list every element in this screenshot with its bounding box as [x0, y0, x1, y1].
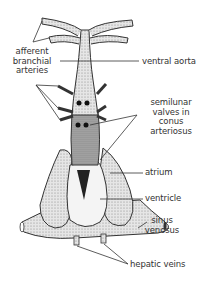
label-ventral-aorta: ventral aorta	[142, 57, 196, 67]
ventricle-shape	[67, 162, 107, 227]
conus-arteriosus-shape	[71, 112, 100, 165]
label-atrium: atrium	[145, 168, 172, 178]
label-sinus-venosus: sinus venosus	[142, 216, 182, 235]
ventral-aorta-shape	[42, 18, 133, 128]
label-ventricle: ventricle	[145, 194, 181, 204]
label-afferent-branchial-arteries: afferent branchial arteries	[10, 47, 54, 76]
heart-illustration	[0, 0, 211, 282]
fish-heart-diagram: afferent branchial arteries ventral aort…	[0, 0, 211, 282]
label-semilunar-valves: semilunar valves in conus arteriosus	[144, 98, 198, 136]
label-hepatic-veins: hepatic veins	[130, 260, 185, 270]
